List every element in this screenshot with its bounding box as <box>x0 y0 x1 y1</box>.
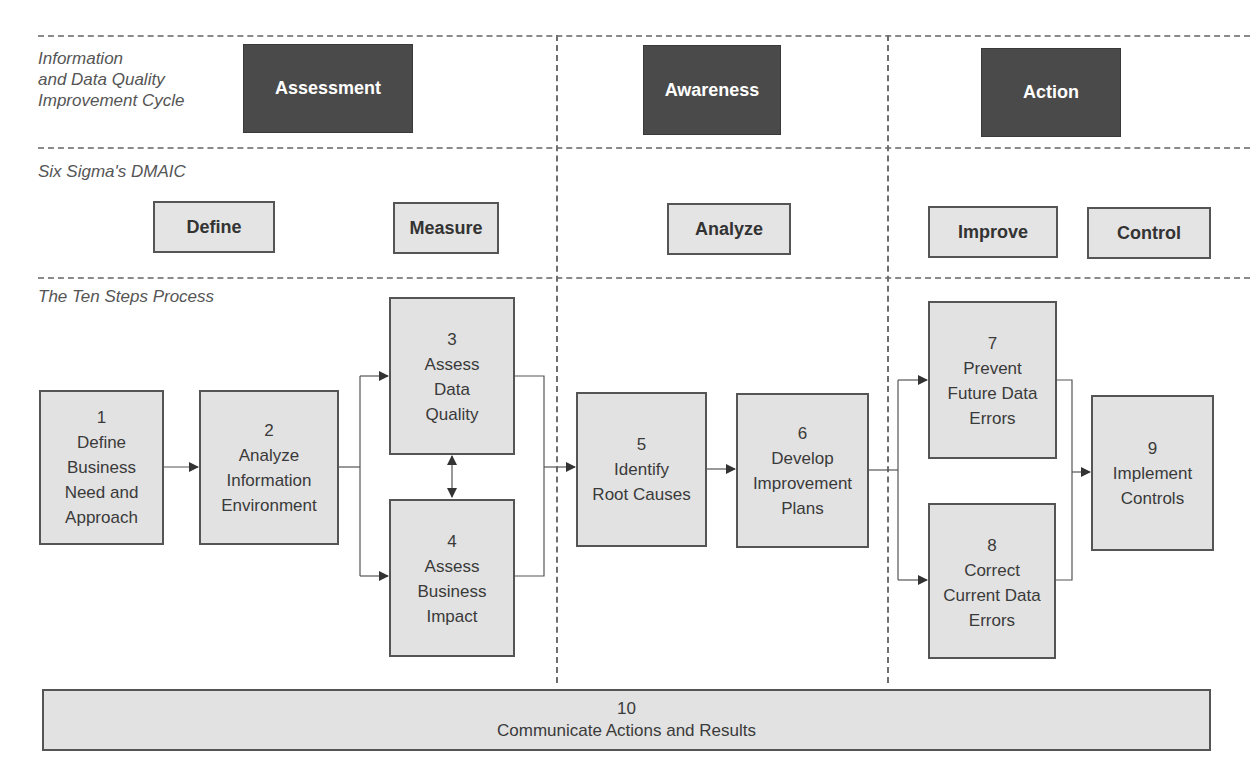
dmaic-analyze: Analyze <box>667 203 791 255</box>
step-number: 8 <box>987 533 996 558</box>
divider-awareness-action <box>887 35 889 683</box>
row-label-cycle: Information and Data Quality Improvement… <box>38 48 184 111</box>
step-1-define-business-need: 1 Define Business Need and Approach <box>39 390 164 545</box>
step-6-develop-improvement-plans: 6 Develop Improvement Plans <box>736 393 869 548</box>
phase-assessment: Assessment <box>243 44 413 133</box>
step-number: 10 <box>617 698 636 720</box>
step-title: Correct Current Data Errors <box>943 558 1040 633</box>
row-label-ten-steps: The Ten Steps Process <box>38 286 214 307</box>
dmaic-define: Define <box>153 201 275 253</box>
step-title: Prevent Future Data Errors <box>948 356 1038 431</box>
dmaic-improve: Improve <box>928 206 1058 258</box>
row-label-dmaic: Six Sigma's DMAIC <box>38 161 186 182</box>
step-2-analyze-information-environment: 2 Analyze Information Environment <box>199 390 339 545</box>
step-number: 2 <box>264 418 273 443</box>
phase-awareness: Awareness <box>643 45 781 135</box>
divider-assessment-awareness <box>556 35 558 683</box>
phase-action: Action <box>981 48 1121 137</box>
divider-cycle-dmaic <box>38 147 1250 149</box>
step-3-assess-data-quality: 3 Assess Data Quality <box>389 297 515 455</box>
step-title: Develop Improvement Plans <box>753 446 852 521</box>
dmaic-measure: Measure <box>393 202 499 254</box>
step-number: 1 <box>97 405 106 430</box>
step-number: 7 <box>988 331 997 356</box>
step-5-identify-root-causes: 5 Identify Root Causes <box>576 392 707 547</box>
dmaic-control: Control <box>1087 207 1211 259</box>
step-title: Assess Data Quality <box>425 352 480 427</box>
step-7-prevent-future-data-errors: 7 Prevent Future Data Errors <box>928 301 1057 459</box>
divider-top <box>38 35 1250 37</box>
step-title: Assess Business Impact <box>418 554 487 629</box>
step-9-implement-controls: 9 Implement Controls <box>1091 395 1214 551</box>
step-title: Communicate Actions and Results <box>497 720 756 742</box>
step-title: Define Business Need and Approach <box>65 430 139 530</box>
divider-dmaic-steps <box>38 277 1250 279</box>
step-8-correct-current-data-errors: 8 Correct Current Data Errors <box>928 503 1056 659</box>
step-number: 9 <box>1148 436 1157 461</box>
step-number: 3 <box>447 327 456 352</box>
step-number: 4 <box>447 529 456 554</box>
step-10-communicate-actions-and-results: 10 Communicate Actions and Results <box>42 689 1211 751</box>
step-number: 6 <box>798 421 807 446</box>
step-4-assess-business-impact: 4 Assess Business Impact <box>389 499 515 657</box>
step-number: 5 <box>637 432 646 457</box>
step-title: Identify Root Causes <box>592 457 690 507</box>
step-title: Analyze Information Environment <box>221 443 316 518</box>
step-title: Implement Controls <box>1113 461 1192 511</box>
